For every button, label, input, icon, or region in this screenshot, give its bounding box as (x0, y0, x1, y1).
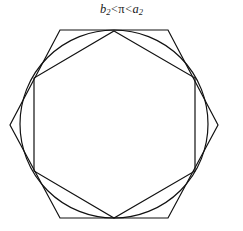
inscribed-hexagon (34, 31, 195, 218)
circle (20, 30, 208, 218)
figure-root: b2<π<a2 (0, 0, 243, 231)
geometry-canvas (0, 0, 243, 231)
circumscribed-hexagon (10, 30, 218, 218)
